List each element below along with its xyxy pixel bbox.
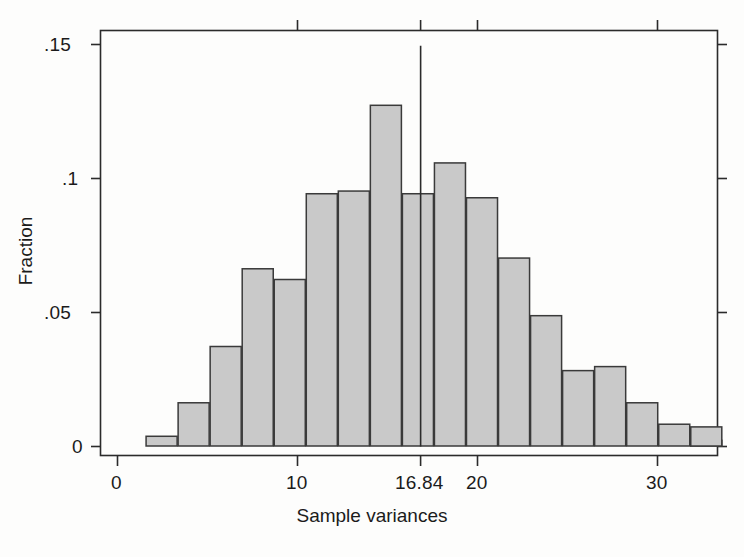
histogram-bar	[274, 280, 305, 447]
histogram-bar	[210, 347, 241, 447]
x-tick-label-30: 30	[646, 472, 668, 494]
x-axis-ticks	[118, 456, 658, 467]
x-axis-ticks-top	[298, 20, 658, 31]
x-tick-label-20: 20	[466, 472, 488, 494]
histogram-bars	[146, 105, 722, 446]
histogram-bar	[595, 367, 626, 446]
x-tick-label-16.84: 16.84	[395, 472, 444, 494]
histogram-bar	[691, 427, 722, 446]
x-tick-label-0: 0	[111, 472, 122, 494]
y-tick-label-0.15: .15	[44, 34, 71, 56]
histogram-bar	[627, 403, 658, 446]
y-axis-title-wrap: Fraction	[8, 170, 36, 340]
histogram-bar	[563, 371, 594, 446]
histogram-bar	[178, 403, 209, 446]
histogram-bar	[402, 194, 433, 446]
y-axis-ticks	[91, 45, 101, 447]
histogram-bar	[531, 316, 562, 446]
histogram-bar	[306, 194, 337, 446]
y-tick-label-0.05: .05	[44, 302, 71, 324]
histogram-bar	[466, 198, 497, 446]
x-axis-title: Sample variances	[0, 505, 744, 527]
y-tick-label-0: 0	[72, 436, 83, 458]
y-axis-title: Fraction	[15, 171, 37, 331]
y-axis-ticks-right	[718, 45, 728, 447]
x-tick-label-10: 10	[286, 472, 308, 494]
histogram-bar	[242, 269, 273, 446]
histogram-bar	[338, 191, 369, 446]
histogram-bar	[499, 258, 530, 446]
histogram-bar	[370, 105, 401, 446]
histogram-figure: .15 .1 .05 0 0 10 16.84 20 30 Sample var…	[0, 0, 744, 557]
histogram-bar	[659, 424, 690, 446]
histogram-bar	[146, 436, 177, 446]
histogram-bar	[434, 163, 465, 446]
y-tick-label-0.1: .1	[62, 168, 78, 190]
